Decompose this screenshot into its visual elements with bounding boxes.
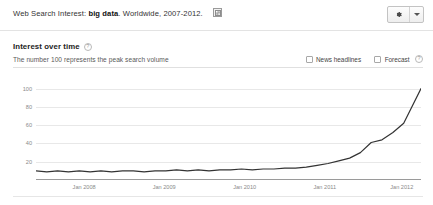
option-news-headlines[interactable]: News headlines xyxy=(306,56,362,63)
chevron-down-icon xyxy=(414,13,420,16)
x-axis-tick-label: Jan 2010 xyxy=(233,184,256,190)
section-title: Interest over time? xyxy=(13,42,92,51)
header-bar: Web Search Interest: big data. Worldwide… xyxy=(0,0,433,30)
settings-button-group[interactable] xyxy=(387,6,424,23)
chart-plot-area: 10080604020 xyxy=(36,84,421,180)
forecast-checkbox[interactable] xyxy=(374,56,381,63)
page-title-suffix: . Worldwide, 2007-2012. xyxy=(118,9,202,18)
embed-image-icon[interactable] xyxy=(213,8,222,17)
y-axis-tick-label: 40 xyxy=(10,140,32,146)
chart-x-axis-labels: Jan 2008Jan 2009Jan 2010Jan 2011Jan 2012 xyxy=(36,184,421,194)
section-subtitle: The number 100 represents the peak searc… xyxy=(13,56,169,63)
section-title-label: Interest over time xyxy=(13,42,80,51)
chart-options: News headlines Forecast ? xyxy=(306,55,424,63)
gear-icon xyxy=(394,10,403,19)
x-axis-tick-label: Jan 2008 xyxy=(73,184,96,190)
settings-dropdown-button[interactable] xyxy=(410,7,423,22)
chart-bottom-divider xyxy=(13,196,423,197)
news-headlines-label: News headlines xyxy=(316,56,361,63)
chart-series-big-data xyxy=(36,84,421,180)
page-title: Web Search Interest: big data. Worldwide… xyxy=(13,9,203,19)
news-headlines-checkbox[interactable] xyxy=(306,56,313,63)
section-divider xyxy=(13,67,423,68)
x-axis-tick-label: Jan 2009 xyxy=(153,184,176,190)
chart-x-axis-line xyxy=(36,179,421,180)
help-icon[interactable]: ? xyxy=(84,43,92,51)
settings-button[interactable] xyxy=(388,7,410,22)
y-axis-tick-label: 100 xyxy=(10,86,32,92)
y-axis-tick-label: 60 xyxy=(10,122,32,128)
x-axis-tick-label: Jan 2011 xyxy=(313,184,336,190)
interest-over-time-chart: 10080604020 Jan 2008Jan 2009Jan 2010Jan … xyxy=(13,76,423,182)
header-divider xyxy=(0,30,433,31)
page-title-prefix: Web Search Interest: xyxy=(13,9,86,18)
y-axis-tick-label: 80 xyxy=(10,104,32,110)
option-forecast[interactable]: Forecast ? xyxy=(374,55,423,63)
google-trends-panel: Web Search Interest: big data. Worldwide… xyxy=(0,0,433,205)
page-title-keyword: big data xyxy=(88,9,118,18)
y-axis-tick-label: 20 xyxy=(10,159,32,165)
forecast-help-icon[interactable]: ? xyxy=(415,55,423,63)
x-axis-tick-label: Jan 2012 xyxy=(390,184,413,190)
forecast-label: Forecast xyxy=(385,56,410,63)
